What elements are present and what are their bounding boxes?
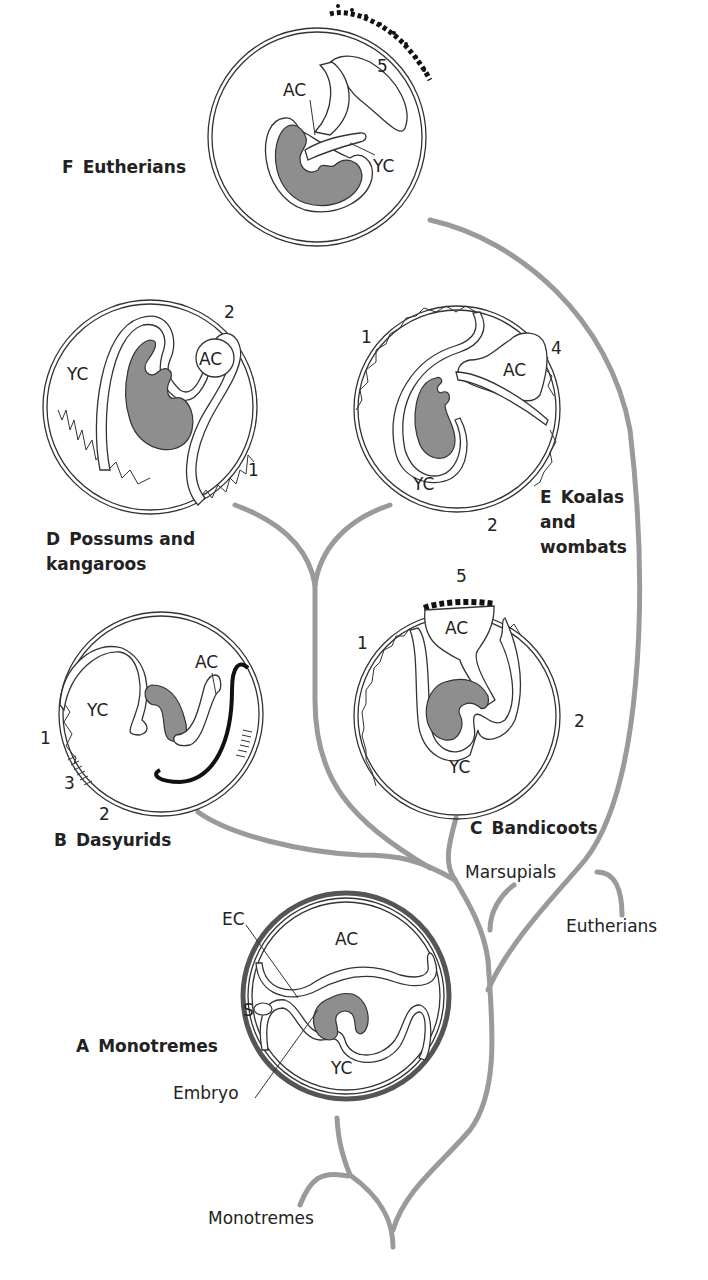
shell-opening-s [254, 1003, 272, 1015]
label-yc: YC [412, 474, 434, 494]
branch-monotremes-stem [337, 1118, 350, 1175]
trophoblast-1 [356, 306, 476, 410]
panel-c-title: CBandicoots [470, 818, 598, 838]
panel-e-title-1: EKoalas [540, 487, 624, 507]
panel-d-possums-kangaroos: YC AC 2 1 DPossums and kangaroos [43, 300, 259, 574]
panel-c-bandicoots: AC YC 1 2 5 CBandicoots [354, 566, 598, 838]
label-ac: AC [199, 349, 222, 369]
label-s: S [243, 1000, 254, 1020]
panel-f-eutherians: AC YC 5 FEutherians [62, 4, 430, 246]
label-ac: AC [283, 80, 306, 100]
branch-dasyurids [198, 812, 455, 880]
label-eutherians: Eutherians [566, 916, 657, 936]
yc-leader [350, 143, 375, 155]
label-yc: YC [330, 1058, 352, 1078]
label-2: 2 [99, 804, 110, 824]
label-marsupials: Marsupials [465, 862, 556, 882]
label-ac: AC [195, 652, 218, 672]
branch-marsupials-label [490, 885, 514, 930]
branch-eutherians-label [597, 872, 622, 915]
branch-monotremes-label [300, 1174, 348, 1205]
label-5: 5 [377, 56, 388, 76]
panel-e-title-2: and [540, 512, 576, 532]
label-ac: AC [335, 929, 358, 949]
label-3: 3 [64, 773, 75, 793]
chorion-outer [208, 28, 426, 246]
branch-root-right [393, 960, 492, 1230]
embryo [415, 377, 455, 458]
panel-a-monotremes: AC YC EC S Embryo AMonotremes [76, 893, 449, 1103]
label-ec: EC [222, 909, 245, 929]
label-ac: AC [503, 360, 526, 380]
label-4: 4 [551, 338, 562, 358]
label-1: 1 [357, 633, 368, 653]
branch-root [350, 1175, 393, 1247]
panel-b-dasyurids: AC YC 1 3 2 BDasyurids [40, 612, 263, 850]
label-2: 2 [224, 302, 235, 322]
label-1: 1 [40, 728, 51, 748]
label-embryo: Embryo [173, 1083, 239, 1103]
label-yc: YC [66, 364, 88, 384]
panel-b-title: BDasyurids [54, 830, 171, 850]
panel-e-koalas-wombats: AC YC 1 2 4 EKoalas and wombats [354, 306, 627, 557]
yolk-sac [60, 647, 147, 735]
label-2: 2 [487, 515, 498, 535]
ac-leader [310, 100, 315, 135]
label-monotremes: Monotremes [208, 1208, 314, 1228]
branch-koalas [315, 505, 390, 585]
panel-f-title: FEutherians [62, 157, 186, 177]
panel-a-title: AMonotremes [76, 1036, 218, 1056]
label-yc: YC [86, 700, 108, 720]
panel-d-title-2: kangaroos [46, 554, 146, 574]
label-5: 5 [456, 566, 467, 586]
label-1: 1 [361, 327, 372, 347]
branch-therian-stem [455, 880, 488, 960]
allantois [256, 953, 437, 997]
fetal-membrane-diagram: AC YC 5 FEutherians YC AC 2 1 DPossums a… [0, 0, 708, 1280]
label-yc: YC [448, 757, 470, 777]
label-ac: AC [445, 618, 468, 638]
label-1: 1 [248, 460, 259, 480]
branch-possums [235, 505, 315, 585]
label-2: 2 [574, 711, 585, 731]
panel-d-title-1: DPossums and [46, 529, 195, 549]
panel-e-title-3: wombats [540, 537, 627, 557]
label-yc: YC [372, 156, 394, 176]
embryo [145, 685, 186, 741]
branch-bandicoots [448, 818, 456, 880]
trophoblast-right [534, 430, 556, 486]
